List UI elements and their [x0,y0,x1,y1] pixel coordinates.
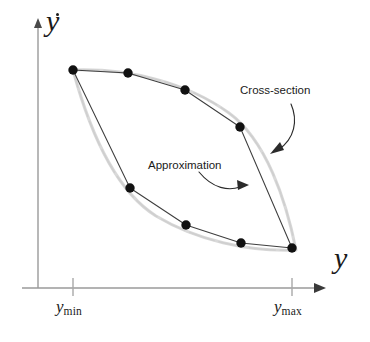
vertical-axis-arrowhead [34,18,42,28]
x-axis-label: y [334,243,347,273]
sample-point-marker[interactable] [123,68,132,77]
tick-label-y-min-subscript: min [64,305,83,317]
y-axis-label-dot-accent [56,13,59,16]
sample-point-marker[interactable] [181,220,190,229]
cross-section-leader-arrow [270,104,295,154]
sample-point-marker[interactable] [180,85,189,94]
sample-point-marker[interactable] [235,122,244,131]
phase-plane-figure: y y ymin ymax Cross-section Approximatio… [0,0,370,342]
sample-point-marker[interactable] [236,238,245,247]
y-axis-label-glyph: y [46,6,59,36]
tick-label-y-max-var: y [274,297,282,316]
approximation-leader-arrow [199,172,249,190]
tick-label-y-min: ymin [56,298,82,318]
approximation-annotation-label: Approximation [148,160,222,172]
sample-point-marker[interactable] [68,65,77,74]
sample-point-marker[interactable] [125,183,134,192]
sample-point-marker[interactable] [287,243,296,252]
cross-section-arrowhead [270,142,284,154]
tick-label-y-max-subscript: max [282,305,302,317]
axes-group [22,18,326,296]
approximation-arrowhead [237,180,249,190]
cross-section-annotation-label: Cross-section [240,85,310,97]
tick-label-y-max: ymax [274,298,302,318]
horizontal-axis-arrowhead [314,283,326,293]
tick-label-y-min-var: y [56,297,64,316]
approximation-arrow-shaft [199,172,240,189]
y-axis-label: y [43,8,83,50]
